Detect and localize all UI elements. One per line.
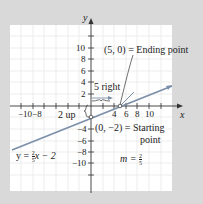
equation-label: y = 25x − 2	[16, 150, 56, 163]
x-ticks-left: −10−8	[18, 110, 42, 119]
y-axis-arrow-icon	[89, 18, 94, 24]
y-tick-neg8: −8	[77, 148, 87, 157]
rise-label: 2 up	[58, 110, 76, 120]
line-arrow-icon	[166, 85, 172, 90]
y-tick-neg6: −6	[77, 137, 87, 146]
x-tick-10: 10	[145, 110, 154, 119]
slope-label: m = 25	[120, 153, 142, 166]
slope-den: 5	[139, 160, 142, 166]
starting-point-label-line2: point	[140, 135, 161, 145]
y-tick-2: 2	[81, 90, 86, 99]
x-tick-6: 6	[124, 110, 129, 119]
slope-prefix: m =	[120, 153, 139, 164]
starting-point-marker	[89, 115, 93, 119]
ending-label-leader	[120, 55, 133, 105]
run-label: 5 right	[94, 82, 120, 92]
x-axis-arrow-icon	[177, 104, 183, 109]
y-tick-6: 6	[81, 67, 86, 76]
ending-point-label: (5, 0) = Ending point	[104, 45, 188, 55]
equation-tail: x − 2	[35, 150, 56, 161]
coordinate-plane	[0, 0, 203, 204]
y-tick-8: 8	[81, 55, 86, 64]
y-tick-10: 10	[76, 44, 85, 53]
slope-num: 2	[139, 153, 142, 160]
rise-brace	[84, 105, 88, 117]
y-axis-label: y	[83, 13, 87, 23]
ending-point-marker	[118, 104, 122, 108]
y-tick-4: 4	[81, 78, 86, 87]
starting-point-label: (0, −2) = Starting	[95, 123, 165, 133]
run-brace	[92, 100, 110, 101]
y-tick-neg10: −10	[72, 159, 86, 168]
equation-prefix: y =	[16, 150, 32, 161]
x-axis-label: x	[180, 110, 184, 120]
x-tick-4: 4	[112, 110, 117, 119]
y-tick-neg4: −4	[77, 125, 87, 134]
run-arrowhead-icon	[108, 96, 113, 100]
x-tick-8: 8	[135, 110, 140, 119]
slope-fraction: 25	[139, 153, 142, 166]
